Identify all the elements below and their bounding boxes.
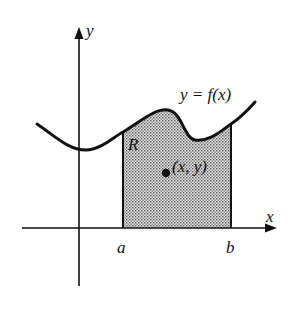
y-axis-arrow-icon (75, 27, 84, 39)
curve-label: y = f(x) (178, 85, 231, 104)
x-axis-label: x (265, 207, 274, 226)
region-label: R (127, 135, 139, 154)
point-label: (x, y) (172, 157, 207, 176)
y-axis-label: y (84, 21, 94, 40)
a-label: a (117, 238, 126, 257)
b-label: b (226, 238, 235, 257)
centroid-point (162, 169, 170, 177)
centroid-diagram: y x y = f(x) R (x, y) a b (0, 0, 292, 315)
